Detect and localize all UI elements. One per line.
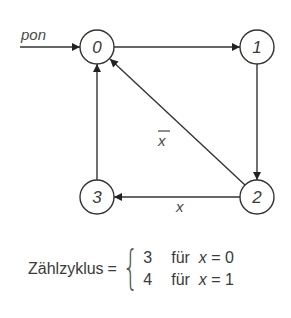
edge-label-x-bar: x (157, 131, 170, 149)
state-diagram: pon x x 0 1 2 3 (0, 0, 291, 240)
state-3: 3 (80, 180, 114, 214)
svg-text:x: x (157, 132, 166, 149)
svg-text:0: 0 (92, 38, 102, 57)
curly-brace-icon: { (123, 244, 139, 290)
formula-equals: = (108, 260, 117, 278)
formula-case-2: 4 für x = 1 (143, 271, 234, 289)
count-cycle-formula: Zählzyklus = { 3 für x = 0 4 für x = 1 (28, 243, 234, 295)
case-condition: für x = 0 (171, 249, 234, 267)
edge-label-x: x (175, 198, 184, 215)
input-arrow-pon: pon (20, 26, 80, 47)
svg-text:1: 1 (252, 38, 261, 57)
svg-text:2: 2 (251, 188, 262, 207)
state-1: 1 (240, 30, 274, 64)
svg-text:3: 3 (92, 188, 102, 207)
case-condition: für x = 1 (171, 271, 234, 289)
state-0: 0 (80, 30, 114, 64)
formula-lhs: Zählzyklus (28, 260, 104, 278)
formula-cases: 3 für x = 0 4 für x = 1 (143, 249, 234, 289)
input-label-pon: pon (20, 26, 46, 43)
case-value: 3 (143, 249, 171, 267)
state-2: 2 (240, 180, 274, 214)
formula-case-1: 3 für x = 0 (143, 249, 234, 267)
edge-2-to-0 (110, 59, 245, 185)
case-value: 4 (143, 271, 171, 289)
